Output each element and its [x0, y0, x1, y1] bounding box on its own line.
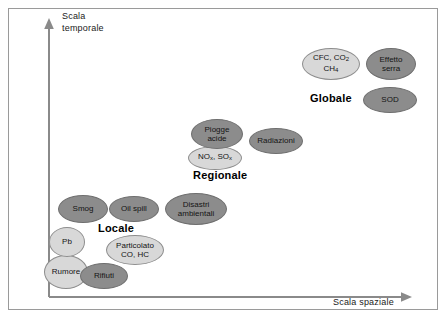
scale-label-globale: Globale	[310, 92, 352, 104]
bubble-sod: SOD	[363, 87, 417, 113]
bubble-label: Particolato CO, HC	[116, 241, 154, 260]
bubble-piogge-acide: Piogge acide	[191, 119, 243, 149]
scale-label-locale: Locale	[98, 222, 134, 234]
bubble-smog: Smog	[58, 195, 108, 223]
vertical-arrow-axis	[44, 18, 54, 297]
bubble-nox-sox: NOx, SOx	[188, 146, 242, 170]
bubble-effetto-serra: Effetto serra	[366, 48, 416, 80]
bubble-label: Effetto serra	[380, 55, 403, 74]
bubble-label: Smog	[73, 204, 94, 214]
bubble-radiazioni: Radiazioni	[249, 128, 303, 154]
bubble-cfc-co2-ch4: CFC, CO2CH4	[302, 48, 360, 80]
bubble-rifiuti: Rifiuti	[80, 263, 128, 289]
bubble-disastri-ambientali: Disastri ambientali	[165, 193, 227, 225]
bubble-label: SOD	[381, 95, 398, 105]
plot-area: Scala temporale Scala spaziale GlobaleRe…	[0, 0, 448, 321]
bubble-label: CFC, CO2CH4	[313, 53, 349, 76]
figure-canvas: Scala temporale Scala spaziale GlobaleRe…	[0, 0, 448, 321]
scale-label-regionale: Regionale	[193, 169, 247, 181]
y-axis-title: Scala temporale	[62, 10, 104, 34]
bubble-particolato-co-hc: Particolato CO, HC	[106, 235, 164, 265]
bubble-label: Rumore	[52, 267, 80, 277]
bubble-label: Disastri ambientali	[178, 200, 214, 219]
bubble-label: Piogge acide	[205, 125, 230, 144]
bubble-label: Oil spill	[121, 204, 147, 214]
bubble-oil-spill: Oil spill	[109, 196, 159, 222]
bubble-label: Radiazioni	[257, 136, 294, 146]
bubble-label: Pb	[62, 237, 72, 247]
bubble-pb: Pb	[49, 227, 85, 257]
x-axis-title: Scala spaziale	[333, 296, 394, 308]
bubble-label: Rifiuti	[94, 271, 114, 281]
bubble-label: NOx, SOx	[198, 152, 232, 164]
